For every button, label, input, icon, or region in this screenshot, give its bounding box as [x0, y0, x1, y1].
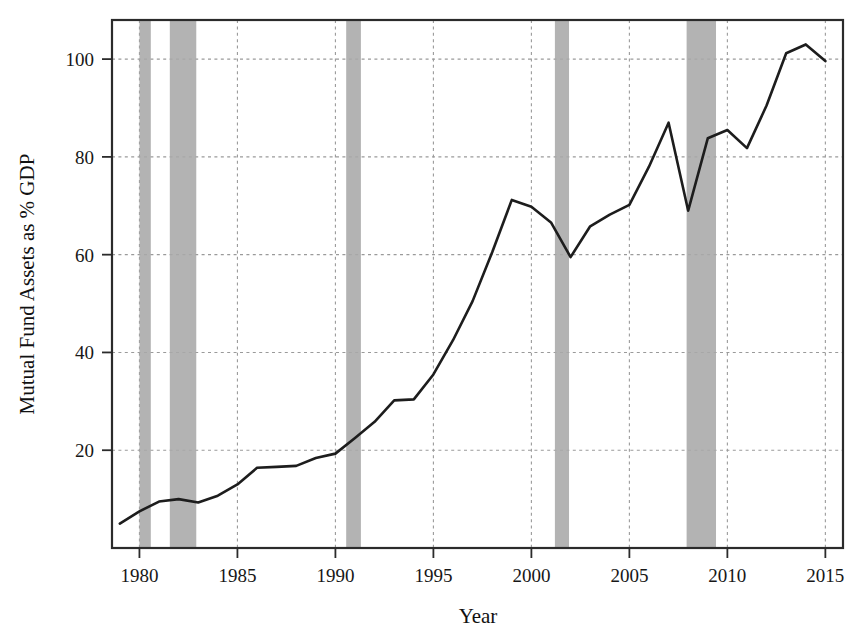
y-tick-label: 40: [75, 342, 94, 363]
x-tick-label: 1995: [414, 565, 452, 586]
x-axis-tick-labels: 19801985199019952000200520102015: [120, 565, 844, 586]
x-axis-ticks: [139, 548, 825, 558]
recession-band: [170, 21, 196, 548]
x-tick-label: 1985: [218, 565, 256, 586]
y-axis-tick-labels: 20406080100: [66, 49, 95, 461]
x-tick-label: 1990: [316, 565, 354, 586]
x-tick-label: 2005: [610, 565, 648, 586]
line-chart-canvas: 19801985199019952000200520102015 2040608…: [0, 0, 865, 637]
recession-band: [687, 21, 716, 548]
chart-gridlines: [112, 20, 843, 548]
data-series-group: [120, 44, 826, 523]
data-line-mutual-fund-assets: [120, 44, 826, 523]
y-axis-ticks: [102, 59, 112, 450]
x-tick-label: 2010: [708, 565, 746, 586]
recession-band: [555, 21, 569, 548]
y-tick-label: 80: [75, 147, 94, 168]
x-tick-label: 2015: [806, 565, 844, 586]
recession-band: [139, 21, 150, 548]
x-axis-title: Year: [459, 604, 498, 628]
y-axis-title: Mutual Fund Assets as % GDP: [15, 154, 39, 415]
y-tick-label: 20: [75, 440, 94, 461]
x-tick-label: 1980: [120, 565, 158, 586]
plot-area-frame: [112, 20, 843, 548]
y-tick-label: 100: [66, 49, 95, 70]
recession-band: [346, 21, 361, 548]
y-tick-label: 60: [75, 245, 94, 266]
x-tick-label: 2000: [512, 565, 550, 586]
chart-figure: 19801985199019952000200520102015 2040608…: [0, 0, 865, 637]
